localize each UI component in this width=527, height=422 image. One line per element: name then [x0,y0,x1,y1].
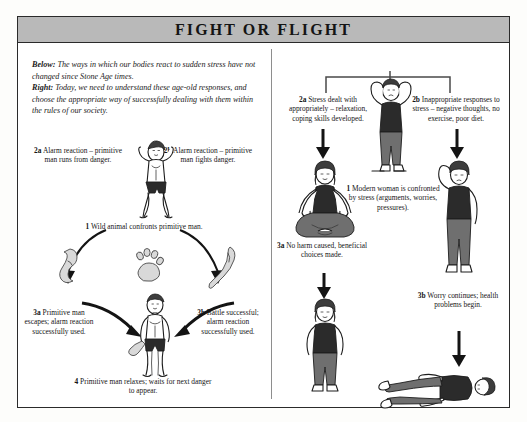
icon-club [208,245,240,289]
right-caption-3a: 3a No harm caused, beneficial choices ma… [276,241,368,260]
panel-divider [271,49,272,399]
figure-primitive-man-alarmed [128,139,184,219]
left-caption-2a: 2a Alarm reaction – primitive man runs f… [30,146,126,165]
arrow-down-3a [316,129,330,163]
arrow-down-3b [450,129,464,163]
icon-animal-paw-print [132,248,166,284]
intro-below-text: The ways in which our bodies react to su… [32,60,255,81]
figure-primitive-man-relaxed [124,293,186,379]
right-caption-3b-text: Worry continues; health problems begin. [426,291,499,309]
figure-modern-woman-collapsed [370,365,502,411]
figure-modern-woman-content [294,298,356,398]
figure-modern-woman-worried [428,159,490,283]
poster-page: FIGHT OR FLIGHT Below: The ways in which… [0,0,527,422]
left-caption-3a-tag: 3a [33,308,40,317]
poster-title-bar: FIGHT OR FLIGHT [18,17,509,43]
poster-body: Below: The ways in which our bodies reac… [18,43,509,407]
right-caption-3b: 3b Worry continues; health problems begi… [416,291,500,310]
right-caption-3b-tag: 3b [418,291,426,300]
left-caption-2a-text: Alarm reaction – primitive man runs from… [41,146,121,164]
figure-modern-woman-stressed [362,77,420,183]
page-title: FIGHT OR FLIGHT [175,21,352,39]
left-caption-4-text: Primitive man relaxes; waits for next da… [78,377,211,395]
right-caption-2b-text: Inappropriate responses to stress – nega… [412,95,499,123]
left-caption-4: 4 Primitive man relaxes; waits for next … [73,377,213,396]
intro-below-label: Below: [32,60,55,69]
right-caption-1-text: Modern woman is confronted by stress (ar… [349,184,440,212]
icon-running-leg [56,247,86,289]
right-caption-2b: 2b Inappropriate responses to stress – n… [408,95,504,123]
right-caption-3a-text: No harm caused, beneficial choices made. [284,241,367,259]
intro-right-text: Today, we need to understand these age-o… [32,83,253,115]
intro-text-block: Below: The ways in which our bodies reac… [32,59,260,117]
figure-modern-woman-meditating [288,159,362,243]
intro-right-label: Right: [32,83,53,92]
